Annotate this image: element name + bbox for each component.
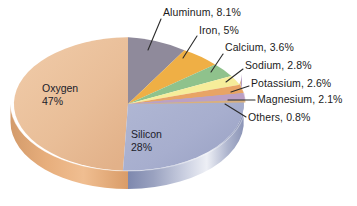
slice-label-silicon-percent: 28% — [131, 141, 162, 154]
callout-label-magnesium: Magnesium, 2.1% — [257, 94, 343, 105]
slice-label-silicon: Silicon 28% — [131, 128, 162, 154]
callout-label-sodium: Sodium, 2.8% — [245, 60, 312, 71]
pie-chart-figure: Aluminum, 8.1% Iron, 5% Calcium, 3.6% So… — [0, 0, 357, 206]
slice-label-oxygen-name: Oxygen — [42, 82, 78, 94]
slice-label-oxygen: Oxygen 47% — [42, 82, 78, 108]
callout-label-calcium: Calcium, 3.6% — [225, 42, 294, 53]
callout-label-aluminum: Aluminum, 8.1% — [163, 7, 241, 18]
callout-label-potassium: Potassium, 2.6% — [251, 78, 331, 89]
callout-label-iron: Iron, 5% — [199, 25, 239, 36]
callout-label-others: Others, 0.8% — [248, 112, 310, 123]
slice-label-silicon-name: Silicon — [131, 128, 162, 140]
slice-label-oxygen-percent: 47% — [42, 95, 78, 108]
